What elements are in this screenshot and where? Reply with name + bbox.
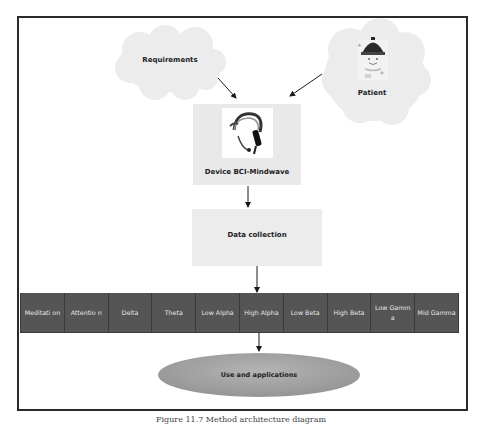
svg-text:+: + [357, 41, 362, 48]
signal-cell-theta: Theta [152, 293, 196, 333]
arrow-requirements-to-device [218, 78, 236, 98]
patient-icon: + [357, 37, 388, 80]
signal-cell-meditation: Meditati on [20, 293, 65, 333]
signal-cell-high-beta: High Beta [328, 293, 372, 333]
signal-label: Low Gamma [373, 303, 412, 321]
signal-label: High Beta [333, 308, 364, 317]
signal-label: Theta [165, 308, 183, 317]
signal-label: Mid Gamma [418, 308, 456, 317]
device-node: Device BCI-Mindwave [193, 104, 301, 185]
mindwave-headset-icon [222, 108, 273, 158]
signal-label: High Alpha [244, 308, 278, 317]
requirements-label: Requirements [120, 56, 220, 64]
data-collection-label: Data collection [192, 231, 322, 239]
device-label: Device BCI-Mindwave [193, 168, 301, 176]
patient-label: Patient [332, 89, 412, 97]
arrow-patient-to-device [290, 74, 322, 96]
signal-cell-low-beta: Low Beta [284, 293, 328, 333]
signal-label: Attentio n [71, 308, 102, 317]
signal-cell-high-alpha: High Alpha [240, 293, 284, 333]
signal-band: Meditati on Attentio n Delta Theta Low A… [20, 293, 459, 333]
signal-label: Low Alpha [201, 308, 233, 317]
signal-cell-delta: Delta [109, 293, 153, 333]
signal-cell-low-alpha: Low Alpha [196, 293, 240, 333]
signal-cell-low-gamma: Low Gamma [371, 293, 415, 333]
signal-cell-attention: Attentio n [65, 293, 109, 333]
signal-label: Delta [122, 308, 139, 317]
use-applications-label: Use and applications [159, 371, 359, 379]
figure-caption: Figure 11.7 Method architecture diagram [0, 415, 482, 424]
data-collection-node: Data collection [192, 209, 322, 266]
signal-label: Low Beta [291, 308, 320, 317]
signal-cell-mid-gamma: Mid Gamma [415, 293, 459, 333]
signal-label: Meditati on [25, 308, 60, 317]
